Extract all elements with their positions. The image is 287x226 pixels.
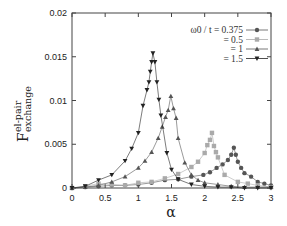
x-tick-label: 2 xyxy=(202,193,207,203)
legend-item: = 1 xyxy=(231,44,268,54)
legend: ω0 / t = 0.375= 0.5= 1= 1.5 xyxy=(190,25,268,64)
y-axis-label: F el-pair exchange xyxy=(12,86,33,142)
x-tick-label: 0.5 xyxy=(99,193,112,203)
x-tick-label: 1 xyxy=(136,193,141,203)
x-tick-label: 1.5 xyxy=(165,193,178,203)
svg-text:exchange: exchange xyxy=(22,86,33,132)
series-triangle-down xyxy=(70,51,274,190)
x-tick-label: 2.5 xyxy=(232,193,245,203)
y-tick-label: 0 xyxy=(62,183,67,193)
legend-label: = 1.5 xyxy=(223,54,243,64)
legend-label: = 0.5 xyxy=(223,35,243,45)
x-tick-label: 0 xyxy=(69,193,74,203)
x-axis-label: α xyxy=(166,204,176,220)
series-triangle-up xyxy=(70,94,274,190)
x-tick-label: 3 xyxy=(268,193,273,203)
y-axis-label-base: F xyxy=(15,132,31,142)
legend-item: ω0 / t = 0.375 xyxy=(190,25,268,35)
legend-label: = 1 xyxy=(231,44,244,54)
legend-label: ω0 / t = 0.375 xyxy=(190,25,243,35)
y-tick-label: 0.005 xyxy=(44,139,67,149)
series-layer xyxy=(70,51,274,190)
series-square xyxy=(70,131,273,191)
legend-item: = 0.5 xyxy=(223,35,268,45)
y-tick-label: 0.01 xyxy=(49,96,67,106)
y-tick-label: 0.015 xyxy=(44,52,67,62)
legend-item: = 1.5 xyxy=(223,54,268,64)
y-tick-label: 0.02 xyxy=(49,8,67,18)
y-axis-label-sub: exchange xyxy=(22,86,33,132)
svg-text:F: F xyxy=(15,132,31,142)
chart: 00.511.522.53 00.0050.010.0150.02 ω0 / t… xyxy=(0,0,287,226)
